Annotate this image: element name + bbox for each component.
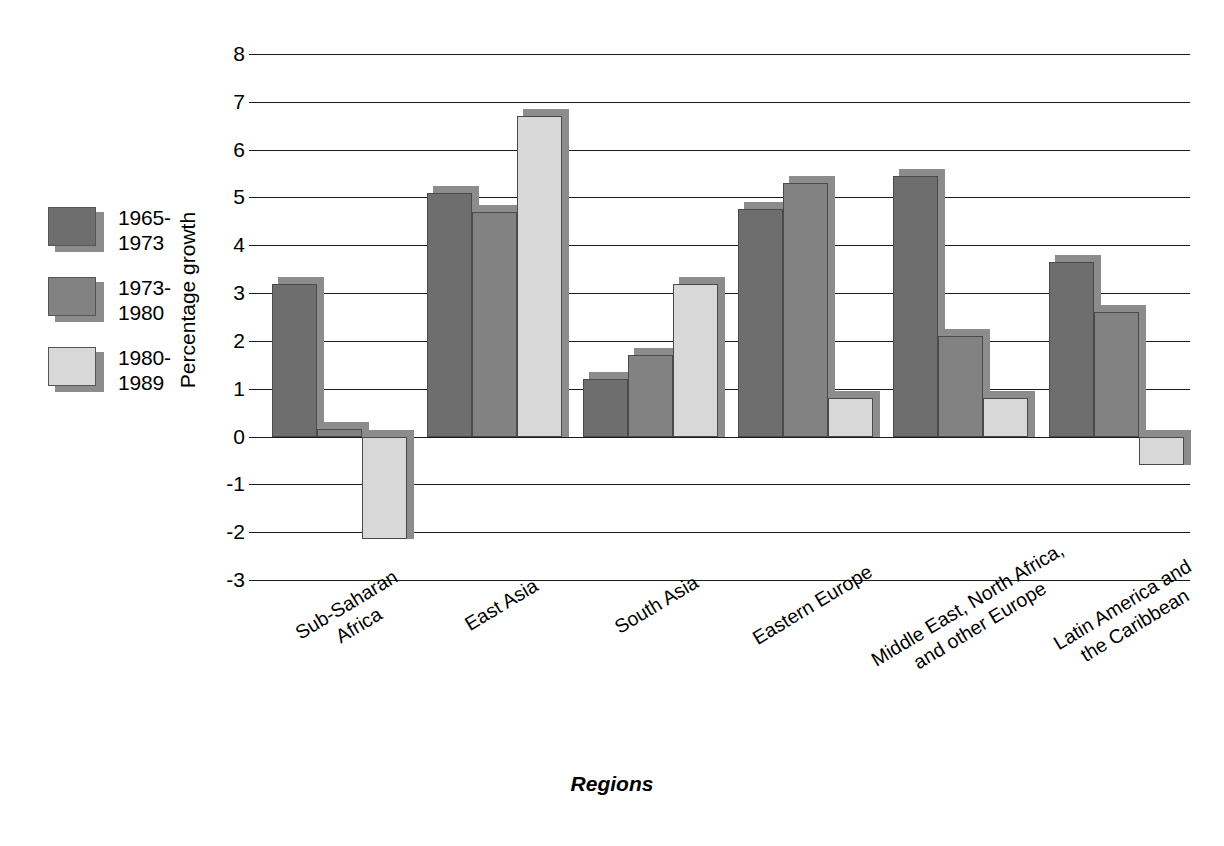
y-tick-label: -1 xyxy=(226,472,245,496)
y-tick-mark xyxy=(249,245,258,246)
bar-top-face xyxy=(1100,305,1145,312)
bar xyxy=(472,212,517,437)
y-tick-label: 8 xyxy=(233,42,245,66)
bar xyxy=(1139,437,1184,466)
y-tick-mark xyxy=(249,484,258,485)
bar-top-face xyxy=(368,430,413,437)
bar-front-face xyxy=(893,176,938,437)
gridline xyxy=(258,197,1190,198)
bar xyxy=(427,193,472,437)
legend-item-label: 1980- 1989 xyxy=(118,345,171,395)
y-tick-label: -2 xyxy=(226,520,245,544)
bar-front-face xyxy=(983,398,1028,436)
bar-top-face xyxy=(433,186,478,193)
y-tick-mark xyxy=(249,293,258,294)
bar-front-face xyxy=(938,336,983,436)
y-tick-label: -3 xyxy=(226,568,245,592)
bar-side-face xyxy=(1139,305,1146,436)
gridline xyxy=(258,54,1190,55)
bar-top-face xyxy=(989,391,1034,398)
bar-top-face xyxy=(834,391,879,398)
bar-front-face xyxy=(517,116,562,436)
bar-front-face xyxy=(362,437,407,540)
plot-area: 876543210-1-2-3 xyxy=(258,54,1190,580)
bar-chart: 1965- 1973 1973- 1980 1980- 1989 8765432… xyxy=(0,0,1224,846)
y-tick-label: 0 xyxy=(233,425,245,449)
bar-front-face xyxy=(583,379,628,436)
bar-top-face xyxy=(323,422,368,429)
y-tick-label: 1 xyxy=(233,377,245,401)
bar xyxy=(673,284,718,437)
bar-front-face xyxy=(783,183,828,436)
bar xyxy=(517,116,562,436)
bar-top-face xyxy=(789,176,834,183)
gridline xyxy=(258,150,1190,151)
bar xyxy=(828,398,873,436)
y-tick-mark xyxy=(249,102,258,103)
bar-side-face xyxy=(718,277,725,437)
bar-top-face xyxy=(899,169,944,176)
bar xyxy=(583,379,628,436)
bar-top-face xyxy=(1055,255,1100,262)
bar xyxy=(938,336,983,436)
legend-swatch-icon xyxy=(48,277,106,323)
bar-front-face xyxy=(427,193,472,437)
bar-side-face xyxy=(317,277,324,437)
bar-front-face xyxy=(828,398,873,436)
bar-side-face xyxy=(562,109,569,436)
bar xyxy=(628,355,673,436)
gridline xyxy=(258,245,1190,246)
bar xyxy=(317,429,362,436)
y-tick-label: 6 xyxy=(233,138,245,162)
bar-top-face xyxy=(944,329,989,336)
bar-top-face xyxy=(278,277,323,284)
legend-swatch-icon xyxy=(48,347,106,393)
y-tick-mark xyxy=(249,197,258,198)
y-tick-mark xyxy=(249,532,258,533)
bar xyxy=(1094,312,1139,436)
bar xyxy=(893,176,938,437)
bar-front-face xyxy=(472,212,517,437)
y-tick-label: 5 xyxy=(233,185,245,209)
y-tick-label: 4 xyxy=(233,233,245,257)
y-tick-mark xyxy=(249,580,258,581)
y-axis-title: Percentage growth xyxy=(176,190,200,410)
bar-top-face xyxy=(1145,430,1190,437)
y-tick-mark xyxy=(249,341,258,342)
bar-front-face xyxy=(673,284,718,437)
bar xyxy=(362,437,407,540)
y-tick-mark xyxy=(249,150,258,151)
y-tick-label: 7 xyxy=(233,90,245,114)
bar-front-face xyxy=(738,209,783,436)
legend-item-label: 1973- 1980 xyxy=(118,275,171,325)
legend-item-label: 1965- 1973 xyxy=(118,205,171,255)
x-axis-title: Regions xyxy=(0,772,1224,796)
bar-front-face xyxy=(1049,262,1094,437)
y-tick-mark xyxy=(249,437,258,438)
bar-front-face xyxy=(628,355,673,436)
bar xyxy=(1049,262,1094,437)
bar xyxy=(272,284,317,437)
bar xyxy=(983,398,1028,436)
gridline xyxy=(258,102,1190,103)
y-tick-mark xyxy=(249,54,258,55)
bar-side-face xyxy=(407,430,414,540)
y-tick-mark xyxy=(249,389,258,390)
y-tick-label: 3 xyxy=(233,281,245,305)
bar-front-face xyxy=(1094,312,1139,436)
bar-front-face xyxy=(1139,437,1184,466)
bar-top-face xyxy=(523,109,568,116)
bar xyxy=(783,183,828,436)
bar-front-face xyxy=(317,429,362,436)
bar xyxy=(738,209,783,436)
y-tick-label: 2 xyxy=(233,329,245,353)
bar-front-face xyxy=(272,284,317,437)
bar-top-face xyxy=(679,277,724,284)
legend-swatch-icon xyxy=(48,207,106,253)
